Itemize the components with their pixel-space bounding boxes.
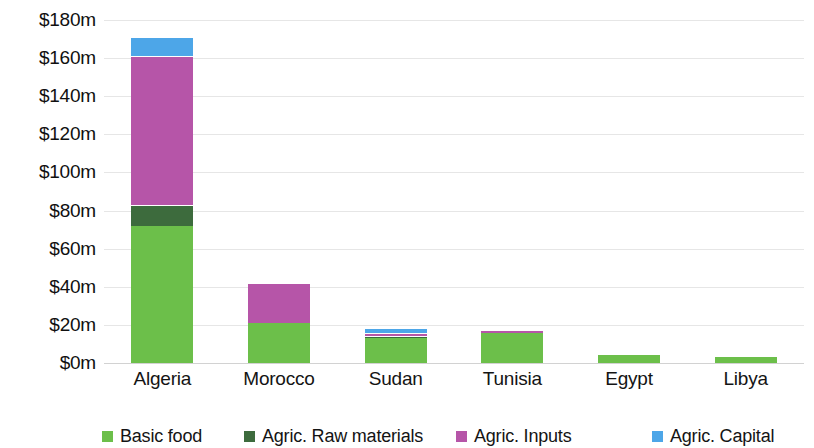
legend-label: Agric. Inputs — [474, 426, 571, 446]
legend-label: Agric. Capital — [670, 426, 774, 446]
axis-baseline — [104, 363, 804, 364]
bar-segment[interactable] — [715, 357, 777, 363]
x-tick-label: Egypt — [571, 368, 688, 390]
y-tick-label: $180m — [0, 10, 96, 29]
bar-segment[interactable] — [248, 283, 310, 323]
gridline — [104, 20, 804, 21]
bar-group[interactable] — [715, 20, 777, 363]
y-tick-label: $100m — [0, 162, 96, 181]
x-tick-label: Libya — [687, 368, 804, 390]
legend-item[interactable]: Agric. Raw materials — [244, 426, 423, 446]
legend-item[interactable]: Agric. Inputs — [456, 426, 571, 446]
gridline — [104, 172, 804, 173]
bar-group[interactable] — [598, 20, 660, 363]
bar-segment[interactable] — [365, 338, 427, 363]
bar-segment[interactable] — [131, 226, 193, 363]
y-tick-label: $60m — [0, 239, 96, 258]
bar-segment[interactable] — [481, 330, 543, 334]
bar-segment[interactable] — [598, 355, 660, 363]
bar-segment[interactable] — [365, 333, 427, 336]
x-tick-label: Morocco — [221, 368, 338, 390]
y-tick-label: $40m — [0, 277, 96, 296]
legend-swatch-icon — [102, 431, 113, 442]
x-tick-label: Sudan — [337, 368, 454, 390]
x-tick-label: Algeria — [104, 368, 221, 390]
bar-group[interactable] — [365, 20, 427, 363]
plot-area — [104, 20, 804, 363]
y-tick-label: $140m — [0, 86, 96, 105]
legend-item[interactable]: Agric. Capital — [652, 426, 774, 446]
chart-legend: Basic foodAgric. Raw materialsAgric. Inp… — [96, 424, 814, 448]
legend-item[interactable]: Basic food — [102, 426, 202, 446]
bar-segment[interactable] — [365, 336, 427, 338]
gridline — [104, 249, 804, 250]
legend-label: Basic food — [120, 426, 202, 446]
bar-segment[interactable] — [365, 328, 427, 333]
y-tick-label: $0m — [0, 353, 96, 372]
y-tick-label: $120m — [0, 124, 96, 143]
y-axis: $0m$20m$40m$60m$80m$100m$120m$140m$160m$… — [0, 0, 96, 383]
bar-segment[interactable] — [481, 333, 543, 363]
gridline — [104, 58, 804, 59]
gridline — [104, 287, 804, 288]
bar-segment[interactable] — [131, 205, 193, 226]
bar-segment[interactable] — [248, 323, 310, 363]
bar-group[interactable] — [248, 20, 310, 363]
bar-segment[interactable] — [131, 56, 193, 205]
legend-swatch-icon — [456, 431, 467, 442]
bar-group[interactable] — [131, 20, 193, 363]
y-tick-label: $160m — [0, 48, 96, 67]
y-tick-label: $80m — [0, 201, 96, 220]
gridline — [104, 134, 804, 135]
gridline — [104, 325, 804, 326]
legend-label: Agric. Raw materials — [262, 426, 423, 446]
y-tick-label: $20m — [0, 315, 96, 334]
x-axis: AlgeriaMoroccoSudanTunisiaEgyptLibya — [104, 368, 804, 396]
bar-segment[interactable] — [131, 37, 193, 56]
bar-group[interactable] — [481, 20, 543, 363]
stacked-bar-chart: $0m$20m$40m$60m$80m$100m$120m$140m$160m$… — [0, 0, 814, 448]
gridline — [104, 96, 804, 97]
legend-swatch-icon — [652, 431, 663, 442]
gridline — [104, 211, 804, 212]
legend-swatch-icon — [244, 431, 255, 442]
x-tick-label: Tunisia — [454, 368, 571, 390]
